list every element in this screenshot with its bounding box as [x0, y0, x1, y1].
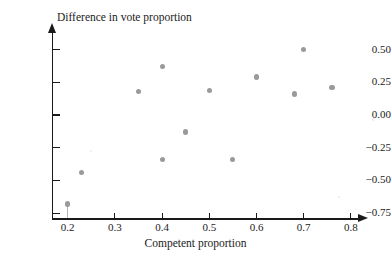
data-point — [254, 74, 259, 79]
x-axis-tick-label: 0.8 — [331, 222, 371, 233]
x-axis-tick-label: 0.2 — [48, 222, 88, 233]
y-axis-tick — [53, 114, 60, 115]
x-axis-tick-label: 0.5 — [189, 222, 229, 233]
paper-speckle — [90, 150, 92, 152]
data-point — [79, 170, 84, 175]
y-axis-tick-label: 0.25 — [347, 76, 391, 87]
x-axis-tick — [303, 213, 304, 220]
data-point — [230, 157, 235, 162]
paper-speckle — [372, 118, 375, 121]
paper-speckle — [338, 196, 340, 198]
y-axis-tick — [53, 180, 60, 181]
x-axis-tick — [162, 213, 163, 220]
data-point — [136, 89, 141, 94]
y-axis-tick — [53, 82, 60, 83]
y-axis-tick-label: −0.25 — [347, 142, 391, 153]
y-axis-tick — [53, 147, 60, 148]
y-axis-tick-label: −0.75 — [347, 207, 391, 218]
y-axis-tick — [53, 213, 60, 214]
x-axis-tick — [350, 213, 351, 220]
data-point — [160, 157, 165, 162]
data-point — [183, 129, 188, 134]
x-axis-tick-label: 0.7 — [284, 222, 324, 233]
x-axis-tick — [114, 213, 115, 220]
data-point — [292, 91, 297, 96]
data-point — [160, 64, 165, 69]
data-point — [65, 201, 70, 206]
y-axis-title: Difference in vote proportion — [57, 12, 192, 24]
y-axis-line — [52, 31, 53, 219]
y-axis-tick-label: −0.50 — [347, 174, 391, 185]
x-axis-tick-label: 0.3 — [95, 222, 135, 233]
x-axis-tick — [256, 213, 257, 220]
data-point — [207, 88, 212, 93]
y-axis-tick — [53, 49, 60, 50]
y-axis-tick-label: 0.00 — [347, 109, 391, 120]
x-axis-tick-label: 0.6 — [237, 222, 277, 233]
x-axis-tick-label: 0.4 — [142, 222, 182, 233]
x-axis-line — [52, 218, 361, 219]
data-point — [301, 47, 306, 52]
x-axis-tick — [209, 213, 210, 220]
data-point — [329, 85, 334, 90]
y-axis-tick-label: 0.50 — [347, 44, 391, 55]
y-axis-arrow-icon — [48, 23, 56, 33]
scatter-plot-figure: Difference in vote proportion 0.500.250.… — [0, 0, 391, 265]
x-axis-title: Competent proportion — [0, 238, 391, 250]
